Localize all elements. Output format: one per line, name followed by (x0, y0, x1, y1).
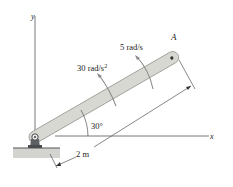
x-axis-label: x (209, 132, 214, 141)
angle-label: 30° (91, 121, 103, 131)
angular-velocity-label: 5 rad/s (120, 42, 143, 52)
diagram-canvas: y x 30° 30 rad/s2 5 rad/s A 2 m (0, 0, 233, 187)
y-axis-label: y (30, 12, 35, 21)
angular-acceleration-label: 30 rad/s2 (77, 63, 107, 73)
length-label: 2 m (76, 149, 89, 159)
point-a-label: A (170, 32, 177, 42)
ground-support (13, 148, 60, 158)
